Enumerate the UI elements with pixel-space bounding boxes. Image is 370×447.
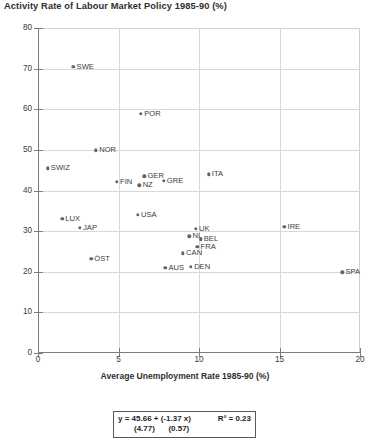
y-axis-tick: [34, 28, 43, 29]
data-point-label: CAN: [186, 250, 202, 258]
y-axis-tick-label: 50: [23, 146, 32, 154]
chart-title: Activity Rate of Labour Market Policy 19…: [4, 1, 227, 11]
y-axis-tick-label: 20: [23, 268, 32, 276]
data-point-label: SWIZ: [51, 164, 70, 172]
gridline-horizontal: [38, 109, 360, 110]
data-point-label: DEN: [194, 263, 210, 271]
r-squared-label: R² = 0.23: [218, 414, 251, 424]
y-axis-tick-label: 70: [23, 65, 32, 73]
data-point: [136, 213, 139, 216]
std-error-intercept: (4.77): [134, 424, 155, 433]
data-point: [138, 184, 141, 187]
regression-equation-text: y = 45.66 + (-1.37 x): [118, 414, 191, 424]
y-axis-tick: [34, 353, 43, 354]
data-point: [341, 270, 344, 273]
x-axis-tick-label: 5: [116, 356, 121, 364]
data-point: [181, 252, 184, 255]
scatter-chart: Activity Rate of Labour Market Policy 19…: [0, 0, 370, 447]
regression-equation-row: y = 45.66 + (-1.37 x) R² = 0.23: [118, 414, 251, 424]
x-axis-title: Average Unemployment Rate 1985-90 (%): [0, 371, 370, 381]
x-axis-tick-label: 0: [36, 356, 41, 364]
data-point-label: AUS: [168, 264, 184, 272]
y-axis-tick-label: 30: [23, 227, 32, 235]
regression-equation-box: y = 45.66 + (-1.37 x) R² = 0.23 (4.77) (…: [113, 411, 256, 438]
data-point-label: IRE: [288, 223, 301, 231]
data-point-label: FRA: [201, 243, 216, 251]
y-axis-tick: [34, 231, 43, 232]
data-point-label: SPA: [345, 268, 360, 276]
plot-area: SWEPORNORSWIZITAGERGREFINNZUSALUXUKIREJA…: [38, 28, 360, 353]
y-axis-tick-labels: 01020304050607080: [0, 28, 32, 353]
y-axis-tick: [34, 191, 43, 192]
data-point-label: GRE: [167, 177, 183, 185]
y-axis-tick-label: 10: [23, 308, 32, 316]
data-point-label: ÖST: [94, 255, 110, 263]
x-axis-tick-label: 15: [275, 356, 284, 364]
regression-standard-errors-row: (4.77) (0.57): [118, 424, 251, 434]
data-point: [207, 173, 210, 176]
data-point: [162, 179, 165, 182]
x-axis-tick-labels: 05101520: [38, 356, 360, 370]
data-point: [163, 266, 166, 269]
data-point-label: JAP: [83, 224, 97, 232]
data-point: [189, 265, 192, 268]
data-point: [60, 217, 63, 220]
data-point: [143, 175, 146, 178]
y-axis-tick-label: 0: [27, 349, 32, 357]
data-point-label: NOR: [99, 146, 116, 154]
data-point-label: ITA: [212, 170, 223, 178]
y-axis-tick: [34, 109, 43, 110]
data-point: [89, 257, 92, 260]
data-point: [139, 112, 142, 115]
data-point-label: LUX: [65, 215, 80, 223]
data-point-label: USA: [141, 211, 157, 219]
y-axis-tick: [34, 69, 43, 70]
y-axis-tick: [34, 272, 43, 273]
gridline-horizontal: [38, 312, 360, 313]
gridline-horizontal: [38, 191, 360, 192]
gridline-horizontal: [38, 272, 360, 273]
data-point-label: POR: [144, 110, 160, 118]
y-axis-tick-label: 40: [23, 187, 32, 195]
data-point-label: NZ: [143, 181, 153, 189]
x-axis-tick-label: 10: [194, 356, 203, 364]
data-point: [194, 227, 197, 230]
y-axis-tick: [34, 312, 43, 313]
std-error-slope: (0.57): [168, 424, 189, 433]
x-axis-tick-label: 20: [355, 356, 364, 364]
gridline-horizontal: [38, 150, 360, 151]
y-axis-tick-label: 60: [23, 105, 32, 113]
data-point: [188, 235, 191, 238]
y-axis-tick-label: 80: [23, 24, 32, 32]
y-axis-tick: [34, 150, 43, 151]
data-point: [78, 226, 81, 229]
data-point: [283, 225, 286, 228]
data-point: [46, 166, 49, 169]
data-point-label: SWE: [77, 63, 94, 71]
data-point: [94, 149, 97, 152]
data-point-label: FIN: [120, 178, 132, 186]
